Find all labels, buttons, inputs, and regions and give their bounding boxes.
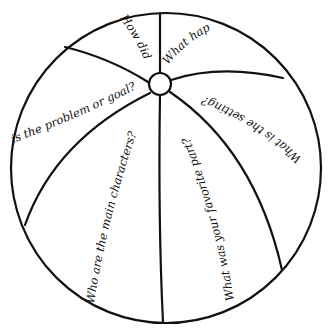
beach-ball: How did What hap What is the setting? is… <box>0 0 329 332</box>
question-what-happened: What hap <box>159 20 212 67</box>
ball-hub <box>149 73 171 95</box>
question-characters: Who are the main characters? <box>83 129 139 305</box>
seam-right <box>170 92 282 270</box>
seam-bottom <box>159 95 163 322</box>
seam-upper-right <box>171 71 283 80</box>
question-problem: is the problem or goal? <box>9 79 139 146</box>
question-favorite-part: What was your favorite part? <box>178 135 237 302</box>
seam-upper-left <box>65 47 148 82</box>
question-how-did: How did <box>117 11 154 62</box>
